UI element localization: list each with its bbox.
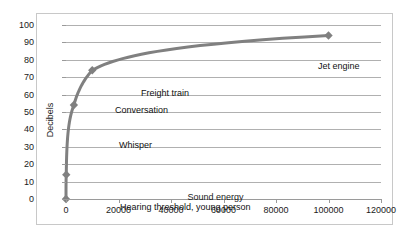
y-axis-tick-labels: 0102030405060708090100 [10,25,34,199]
y-tick-mark-50 [62,112,66,113]
annotation-label: Jet engine [318,61,360,71]
y-tick-label-60: 60 [10,90,34,100]
y-tick-mark-40 [62,129,66,130]
annotation-label: Whisper [119,140,152,150]
series-markers [62,31,333,203]
series-polyline [66,35,329,199]
y-tick-mark-30 [62,147,66,148]
y-tick-label-80: 80 [10,55,34,65]
y-tick-mark-60 [62,95,66,96]
plot-area [66,25,381,199]
y-tick-label-90: 90 [10,37,34,47]
chart-container: Decibels 0102030405060708090100 02000040… [36,13,393,225]
y-tick-mark-90 [62,42,66,43]
y-tick-label-0: 0 [10,194,34,204]
y-tick-label-40: 40 [10,124,34,134]
annotation-label: Conversation [115,105,168,115]
y-tick-label-30: 30 [10,142,34,152]
y-tick-label-20: 20 [10,159,34,169]
annotation-label: Hearing threshold, young person [120,202,251,212]
y-tick-mark-10 [62,182,66,183]
y-axis-title-label: Decibels [45,103,55,138]
y-tick-mark-100 [62,25,66,26]
x-axis-title-label: Sound energy [187,192,243,202]
data-point-marker [62,170,70,178]
y-tick-label-100: 100 [10,20,34,30]
x-tick-label-100000: 100000 [313,205,343,215]
y-tick-mark-80 [62,60,66,61]
x-axis-title: Sound energy [37,192,394,202]
y-tick-label-50: 50 [10,107,34,117]
y-tick-mark-20 [62,164,66,165]
data-point-marker [324,31,332,39]
x-tick-label-0: 0 [63,205,68,215]
x-tick-label-120000: 120000 [366,205,396,215]
y-tick-mark-70 [62,77,66,78]
y-tick-label-10: 10 [10,177,34,187]
y-tick-label-70: 70 [10,72,34,82]
series-line-sound-energy [66,25,381,199]
annotation-label: Freight train [141,88,189,98]
x-tick-label-80000: 80000 [263,205,288,215]
data-point-marker [70,101,78,109]
